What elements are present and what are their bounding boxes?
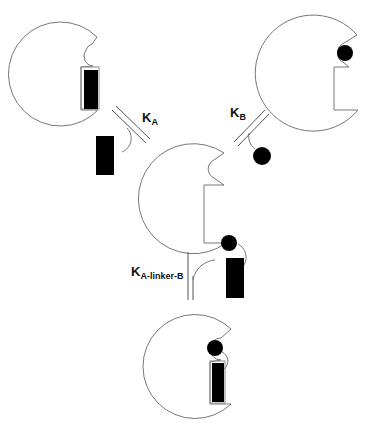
equilibrium-constant-kb: KB <box>230 105 246 122</box>
equilibrium-arrows-klinker <box>188 252 215 300</box>
binding-scheme-diagram <box>0 0 373 433</box>
receptor-top-left <box>8 22 99 126</box>
equilibrium-constant-ka: KA <box>142 110 158 127</box>
circle-ligand <box>337 45 353 61</box>
receptor-center <box>138 144 226 254</box>
receptor-top-right <box>255 15 358 131</box>
equilibrium-constant-klinker: KA-linker-B <box>131 264 183 281</box>
rectangle-ligand <box>84 70 98 109</box>
linked-ligand <box>221 235 246 298</box>
receptor-bottom <box>143 315 231 419</box>
free-circle-ligand <box>249 133 271 165</box>
free-rectangle-ligand <box>96 128 131 175</box>
